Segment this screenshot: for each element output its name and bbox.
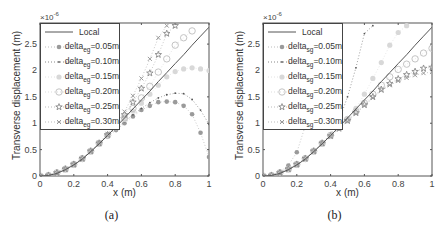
legend-item: deltasg=0.25m	[264, 99, 342, 114]
legend-item: Local	[264, 24, 342, 39]
dot-marker-icon	[43, 57, 61, 67]
caption-a: (a)	[0, 208, 223, 223]
line-marker-icon	[43, 27, 75, 37]
legend-item: deltasg=0.10m	[264, 54, 342, 69]
legend-item: deltasg=0.20m	[264, 84, 342, 99]
y-tick-label: 0.5	[24, 145, 37, 155]
x-marker-icon	[43, 117, 61, 127]
exponent-power: -6	[54, 11, 59, 17]
legend-item: deltaeg=0.20m	[41, 84, 119, 99]
filled-circle-marker-icon	[266, 42, 284, 52]
y-tick-label: 1	[255, 118, 260, 128]
x-axis-label-b: x (m)	[263, 187, 432, 198]
star-marker-icon	[43, 102, 61, 112]
open-circle-marker-icon	[43, 87, 61, 97]
caption-b: (b)	[223, 208, 446, 223]
y-tick-label: 2	[255, 65, 260, 75]
y-tick-label: 0	[255, 171, 260, 181]
legend-item: deltasg=0.05m	[264, 39, 342, 54]
y-tick-label: 0.5	[247, 145, 260, 155]
filled-circle-light-marker-icon	[266, 72, 284, 82]
legend-item: deltaeg=0.25m	[41, 99, 119, 114]
y-tick-label: 2.5	[24, 39, 37, 49]
legend-b: Local deltasg=0.05m deltasg=0.10m deltas…	[263, 23, 343, 130]
exponent-base: ×10	[40, 13, 54, 22]
y-tick-label: 2	[32, 65, 37, 75]
legend-label: Local	[302, 27, 322, 37]
legend-item: Local	[41, 24, 119, 39]
line-marker-icon	[266, 27, 298, 37]
legend-item: deltaeg=0.15m	[41, 69, 119, 84]
y-axis-label-b: Transverse displacement (m)	[234, 31, 245, 160]
dot-marker-icon	[266, 57, 284, 67]
y-tick-label: 1.5	[247, 92, 260, 102]
y-exponent-a: ×10-6	[40, 11, 59, 22]
y-tick-label: 1.5	[24, 92, 37, 102]
y-exponent-b: ×10-6	[263, 11, 282, 22]
legend-label: Local	[79, 27, 99, 37]
filled-circle-marker-icon	[43, 42, 61, 52]
filled-circle-light-marker-icon	[43, 72, 61, 82]
y-tick-label: 1	[32, 118, 37, 128]
legend-a: Local deltaeg=0.05m deltaeg=0.10m deltae…	[40, 23, 120, 130]
legend-item: deltaeg=0.05m	[41, 39, 119, 54]
open-circle-marker-icon	[266, 87, 284, 97]
legend-item: deltaeg=0.30m	[41, 114, 119, 129]
exponent-power: -6	[277, 11, 282, 17]
x-marker-icon	[266, 117, 284, 127]
y-axis-label-a: Transverse displacement (m)	[11, 31, 22, 160]
y-tick-label: 0	[32, 171, 37, 181]
y-tick-label: 2.5	[247, 39, 260, 49]
panel-a: 00.20.40.60.8100.511.522.5 ×10-6 Transve…	[0, 0, 223, 234]
exponent-base: ×10	[263, 13, 277, 22]
x-axis-label-a: x (m)	[40, 187, 209, 198]
star-marker-icon	[266, 102, 284, 112]
legend-item: deltasg=0.30m	[264, 114, 342, 129]
panel-b: 00.20.40.60.8100.511.522.5 ×10-6 Transve…	[223, 0, 446, 234]
legend-item: deltasg=0.15m	[264, 69, 342, 84]
legend-item: deltaeg=0.10m	[41, 54, 119, 69]
